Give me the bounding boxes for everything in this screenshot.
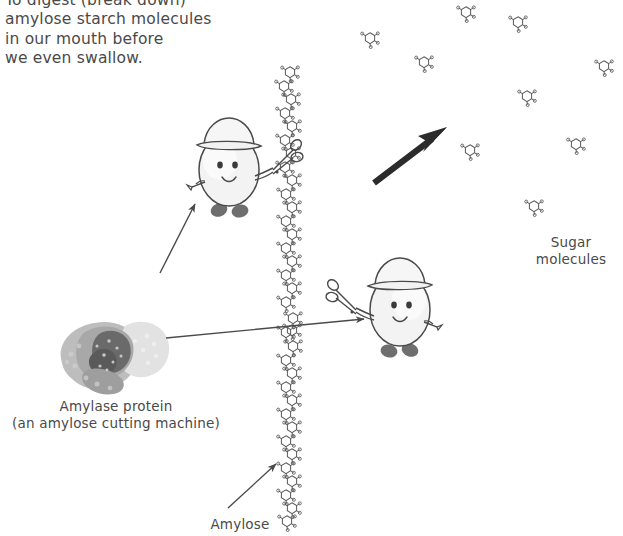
character-eye [406, 302, 412, 309]
amylose-ring [278, 515, 297, 532]
amylose-ring [283, 282, 302, 299]
amylose-ring [283, 174, 302, 191]
amylose-chain [275, 66, 303, 532]
amylose-ring [283, 475, 302, 492]
sugar-molecule [567, 138, 586, 155]
product-arrow [374, 127, 447, 183]
character-hat [197, 118, 261, 150]
amylose-ring [281, 66, 300, 83]
amylose-ring [283, 201, 302, 218]
sugar-molecule [525, 200, 544, 217]
sugar-molecule [457, 6, 476, 23]
amylose-ring [283, 502, 302, 519]
amylose-ring [283, 448, 302, 465]
character-eye [217, 162, 223, 169]
sugar-molecule [415, 56, 434, 73]
amylose-ring [283, 255, 302, 272]
sugar-molecule [361, 32, 380, 49]
amylose-ring [283, 394, 302, 411]
amylase-character-lower [325, 258, 442, 359]
character-eye [391, 302, 397, 309]
sugar-molecule [518, 90, 537, 107]
amylose-ring [277, 296, 296, 313]
character-hat [368, 258, 432, 290]
character-eye [232, 162, 238, 169]
pointer-to-upper-character [160, 204, 195, 273]
scissors-icon [325, 278, 356, 314]
amylose-ring [283, 421, 302, 438]
vector-layer [0, 0, 623, 536]
pointer-to-amylose-chain [228, 464, 276, 508]
amylose-ring [283, 228, 302, 245]
diagram-canvas: To digest (break down) amylose starch mo… [0, 0, 623, 536]
sugar-molecule [595, 60, 614, 77]
amylose-ring [283, 367, 302, 384]
pointer-protein-to-lower-character [166, 319, 364, 338]
sugar-molecule [509, 16, 528, 33]
sugar-molecule [461, 144, 480, 161]
amylose-ring [282, 93, 301, 110]
